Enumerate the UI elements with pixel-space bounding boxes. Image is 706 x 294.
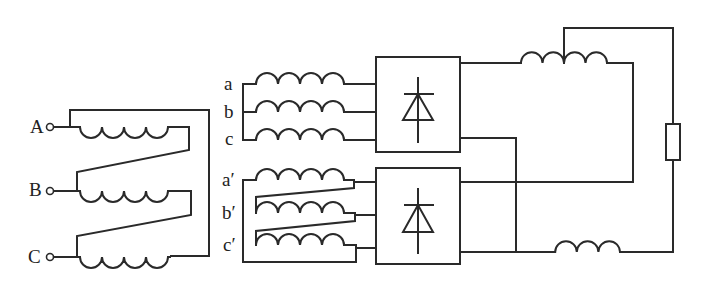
terminal-label-a: A: [30, 116, 44, 137]
twelve-pulse-rectifier-diagram: A B C a b c a′ b′ c′: [0, 0, 706, 294]
terminal-a-icon: [47, 124, 54, 131]
center-tap-lead: [564, 28, 673, 124]
primary-winding-group: A B C: [28, 110, 209, 268]
secondary-label-c: c: [225, 128, 233, 149]
secondary-label-a: a: [224, 73, 233, 94]
wye-coil-c: [243, 129, 376, 140]
primary-coil-a: [54, 127, 189, 191]
rectifier-bridge-2: [376, 168, 460, 264]
terminal-label-b: B: [29, 179, 42, 200]
smoothing-inductor-icon: [460, 241, 620, 252]
primary-coil-b: [54, 191, 191, 257]
wye-coil-a: [243, 73, 376, 84]
interphase-reactor-icon: [460, 52, 633, 182]
terminal-b-icon: [47, 188, 54, 195]
dc-output-group: [460, 28, 680, 252]
bridge-1-negative-lead: [460, 138, 516, 252]
diode-icon: [403, 78, 433, 142]
delta-coil-c-prime: [243, 234, 356, 262]
delta-coil-a-prime: [243, 169, 354, 262]
terminal-c-icon: [47, 254, 54, 261]
load-return-lead: [620, 160, 673, 252]
primary-coil-c: [54, 257, 170, 268]
terminal-label-c: C: [28, 246, 41, 267]
secondary-wye-group: a b c: [224, 73, 376, 149]
secondary-label-c-prime: c′: [223, 234, 236, 255]
secondary-delta-group: a′ b′ c′: [222, 169, 376, 262]
delta-coil-b-prime: [256, 202, 355, 245]
wye-coil-b: [243, 101, 376, 112]
diode-icon: [403, 189, 433, 253]
secondary-label-b-prime: b′: [222, 202, 236, 223]
load-resistor-icon: [666, 124, 680, 160]
secondary-label-b: b: [224, 101, 234, 122]
secondary-label-a-prime: a′: [222, 169, 235, 190]
rectifier-bridge-1: [376, 57, 460, 152]
